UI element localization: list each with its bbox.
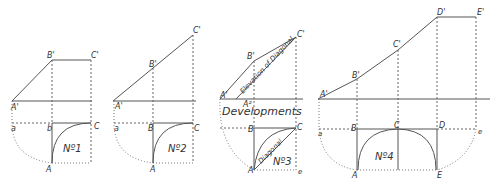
label-c-prime: C' (297, 30, 305, 39)
figure-title: Nº1 (63, 143, 82, 154)
figure-3: B' C' A' A² B C A e Elevation of Diagona… (219, 30, 305, 176)
label-a-prime: A' (10, 103, 19, 112)
label-a-cap: A (149, 165, 155, 174)
label-e-prime: E' (477, 8, 484, 17)
elevation-line (12, 60, 52, 101)
elevation-polyline (318, 17, 437, 99)
label-c: C (94, 122, 100, 131)
label-c: C (297, 123, 303, 132)
developments-label: Developments (222, 105, 302, 118)
developments-diagram: B' C' A' a b C A Nº1 B' C' A' a B C A Nº… (0, 0, 494, 187)
label-b: B (248, 125, 254, 134)
label-c: C (394, 121, 400, 130)
semicircle-arc (358, 129, 436, 170)
label-a-prime: A' (319, 90, 328, 99)
label-a-cap: A (351, 171, 357, 180)
figure-title: Nº2 (168, 143, 187, 154)
label-c-prime: C' (193, 26, 201, 35)
label-c: C (194, 124, 200, 133)
label-b: B (351, 124, 357, 133)
label-d-prime: D' (437, 8, 445, 17)
label-c-prime: C' (393, 40, 401, 49)
label-a-prime: A' (219, 91, 228, 100)
label-b: B (148, 124, 154, 133)
label-e: e (478, 128, 482, 136)
label-b: b (47, 124, 52, 133)
label-a-cap: A (247, 166, 253, 175)
label-a: a (114, 124, 119, 133)
label-e-cap: E (437, 171, 443, 180)
label-a: a (318, 130, 322, 138)
swing-arc-right (437, 129, 476, 170)
figure-1: B' C' A' a b C A Nº1 (10, 51, 100, 174)
figure-4: A' B' C' D' E' a B C D e A E Nº4 (318, 8, 490, 180)
label-c-prime: C' (91, 51, 99, 60)
label-b-prime: B' (247, 52, 255, 61)
label-a: a (11, 124, 16, 133)
figure-title: Nº3 (273, 156, 292, 167)
elevation-of-diagonal-label: Elevation of Diagonal (239, 35, 296, 95)
label-e: e (298, 168, 302, 176)
figure-2: B' C' A' a B C A Nº2 (113, 26, 201, 174)
swing-arc-left (319, 99, 357, 170)
label-b-prime: B' (149, 60, 157, 69)
figure-title: Nº4 (375, 151, 394, 162)
label-b-prime: B' (47, 51, 55, 60)
label-b-prime: B' (352, 71, 360, 80)
label-d: D (439, 121, 445, 130)
label-a-prime: A' (114, 102, 123, 111)
label-a-cap: A (45, 165, 51, 174)
